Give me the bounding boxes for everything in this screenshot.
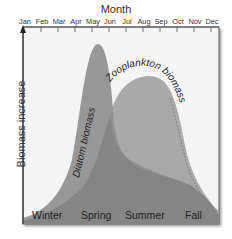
season-label-fall: Fall [185, 209, 202, 221]
season-label-spring: Spring [81, 209, 111, 221]
season-label-summer: Summer [125, 209, 165, 221]
y-axis-label: Biomass increase [15, 74, 27, 174]
plot-area: Diatom biomass Zooplankton biomass [0, 0, 232, 239]
season-label-winter: Winter [32, 209, 62, 221]
